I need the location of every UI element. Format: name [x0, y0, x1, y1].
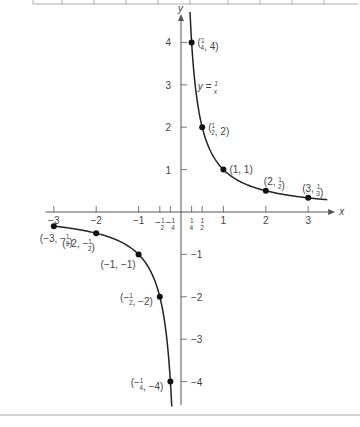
top-table-strip: [33, 0, 358, 4]
data-point: [136, 251, 142, 257]
y-tick-label: 3: [165, 80, 171, 91]
data-point: [220, 167, 226, 173]
y-tick-label: 1: [165, 165, 171, 176]
data-point-label: (3, 13): [302, 183, 323, 198]
data-point: [305, 195, 311, 201]
y-tick-label: −1: [191, 249, 203, 260]
hyperbola-plot: xy−3−2−1−12−1414121234321−1−2−3−4 y = 1x…: [0, 0, 360, 427]
curve-branch-positive: [190, 12, 327, 200]
x-tick-label: −14: [166, 217, 176, 231]
data-point-label: (1, 1): [229, 164, 252, 175]
x-tick-label: −12: [155, 217, 165, 231]
x-tick-label: −2: [90, 215, 102, 226]
data-point-label: (−14, −4): [131, 377, 164, 392]
y-axis-arrow-icon: [178, 14, 184, 21]
data-point-label: (14, 4): [198, 37, 219, 52]
y-axis-label: y: [177, 3, 184, 14]
data-point: [93, 230, 99, 236]
x-tick-label: 14: [190, 217, 194, 231]
y-tick-label: −2: [191, 292, 203, 303]
data-point: [167, 379, 173, 385]
data-point: [157, 294, 163, 300]
axes: xy−3−2−1−12−1414121234321−1−2−3−4: [46, 3, 346, 405]
equation-label: y = 1x: [197, 80, 218, 95]
data-point: [263, 188, 269, 194]
x-tick-label: 3: [305, 215, 311, 226]
data-point-label: (−2, −12): [62, 238, 95, 253]
x-tick-label: 12: [200, 217, 204, 231]
data-point-label: (12, 2): [208, 122, 229, 137]
x-tick-label: 1: [221, 215, 227, 226]
data-point-label: (−1, −1): [101, 259, 136, 270]
x-axis-arrow-icon: [328, 209, 335, 215]
data-point: [199, 124, 205, 130]
data-point-label: (−12, −2): [120, 292, 153, 307]
y-tick-label: 2: [165, 122, 171, 133]
data-point: [51, 223, 57, 229]
curve: y = 1x: [52, 12, 328, 407]
y-tick-label: −3: [191, 334, 203, 345]
x-axis-label: x: [338, 206, 345, 217]
y-tick-label: 4: [165, 37, 171, 48]
curve-branch-negative: [52, 226, 172, 407]
y-tick-label: −4: [191, 377, 203, 388]
x-tick-label: −1: [133, 215, 145, 226]
x-tick-label: 2: [263, 215, 269, 226]
data-point: [189, 39, 195, 45]
data-points: (14, 4)(12, 2)(1, 1)(2, 12)(3, 13)(−3, −…: [40, 37, 323, 391]
